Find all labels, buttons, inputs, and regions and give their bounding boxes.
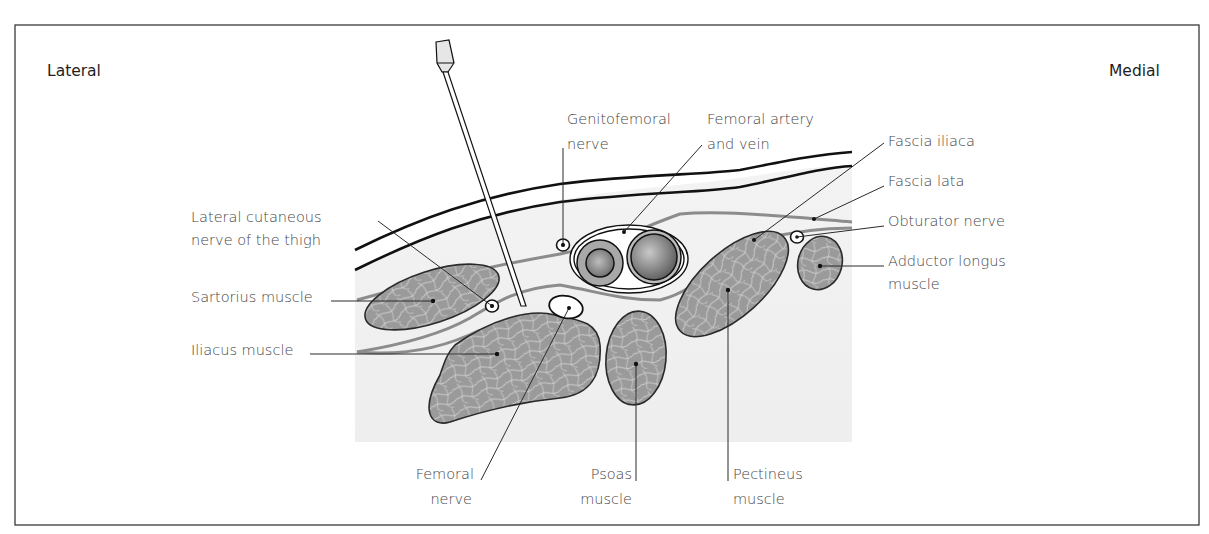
- label-sartorius: Sartorius muscle: [191, 289, 313, 305]
- label-psoas-1: Psoas: [591, 466, 632, 482]
- label-pectineus-1: Pectineus: [733, 466, 803, 482]
- label-genitofemoral-2: nerve: [567, 136, 609, 152]
- label-fascia-iliaca: Fascia iliaca: [888, 133, 975, 149]
- label-lateral-cutaneous-2: nerve of the thigh: [191, 232, 321, 248]
- fascia-iliaca-block-diagram: Lateral Medial: [0, 0, 1209, 534]
- femoral-vein-lumen: [631, 234, 677, 280]
- label-femoral-nerve-2: nerve: [430, 491, 472, 507]
- label-femoral-vessels-1: Femoral artery: [707, 111, 814, 127]
- label-femoral-vessels-2: and vein: [707, 136, 770, 152]
- label-adductor-longus-2: muscle: [888, 276, 940, 292]
- label-obturator: Obturator nerve: [888, 213, 1005, 229]
- label-adductor-longus-1: Adductor longus: [888, 253, 1006, 269]
- label-genitofemoral-1: Genitofemoral: [567, 111, 671, 127]
- label-pectineus-2: muscle: [733, 491, 785, 507]
- label-iliacus: Iliacus muscle: [191, 342, 293, 358]
- lateral-orientation-label: Lateral: [47, 62, 101, 80]
- medial-orientation-label: Medial: [1109, 62, 1160, 80]
- femoral-artery-lumen: [586, 249, 614, 277]
- label-lateral-cutaneous-1: Lateral cutaneous: [191, 209, 322, 225]
- label-psoas-2: muscle: [580, 491, 632, 507]
- label-femoral-nerve-1: Femoral: [416, 466, 474, 482]
- label-fascia-lata: Fascia lata: [888, 173, 964, 189]
